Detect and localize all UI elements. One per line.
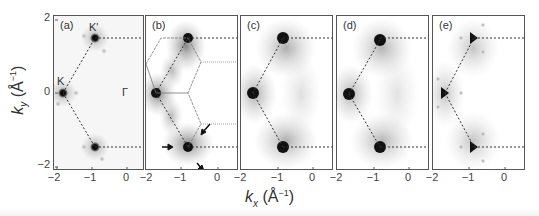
x-tick-a-minus-1: −1 (80, 171, 100, 183)
x-tick-b-minus-2: −2 (136, 171, 156, 183)
x-tick-d-minus-1: −1 (363, 171, 383, 183)
arpes-map-c (241, 16, 333, 170)
x-tick-c-minus-1: −1 (267, 171, 287, 183)
arpes-figure: ky (Å−1) 2 0 −2 (0, 0, 539, 216)
x-tick-e-minus-2: −2 (422, 171, 442, 183)
panel-label-e: (e) (439, 19, 452, 31)
gamma-point-label: Γ (122, 86, 128, 98)
panel-d: (d) (336, 15, 429, 170)
x-tick-e-0: 0 (494, 171, 514, 183)
k-prime-point-label: K' (89, 21, 98, 33)
x-tick-b-0: 0 (207, 171, 227, 183)
x-tick-a-0: 0 (116, 171, 136, 183)
x-tick-c-minus-2: −2 (230, 171, 250, 183)
x-tick-d-0: 0 (398, 171, 418, 183)
y-axis-title: ky (Å−1) (8, 66, 29, 115)
x-tick-b-minus-1: −1 (170, 171, 190, 183)
x-tick-c-0: 0 (302, 171, 322, 183)
arpes-map-b (146, 16, 238, 170)
x-tick-a-minus-2: −2 (44, 171, 64, 183)
y-tick-2: 2 (36, 11, 50, 23)
x-tick-d-minus-2: −2 (326, 171, 346, 183)
panel-label-d: (d) (343, 19, 356, 31)
panel-b: (b) (145, 15, 238, 170)
panel-label-a: (a) (60, 19, 73, 31)
k-point-label: K (57, 75, 64, 87)
x-tick-e-minus-1: −1 (458, 171, 478, 183)
y-tick-minus-2: −2 (30, 158, 50, 170)
panel-c: (c) (240, 15, 333, 170)
arpes-map-a (54, 16, 144, 170)
panel-a: (a) K' K Γ (53, 15, 144, 170)
y-tick-0: 0 (36, 85, 50, 97)
panel-label-c: (c) (247, 19, 260, 31)
x-axis-title: kx (Å−1) (245, 188, 294, 209)
bottom-shade (0, 208, 539, 216)
panel-e: (e) (432, 15, 525, 170)
arpes-map-d (337, 16, 429, 170)
panel-label-b: (b) (152, 19, 165, 31)
arpes-map-e (433, 16, 525, 170)
